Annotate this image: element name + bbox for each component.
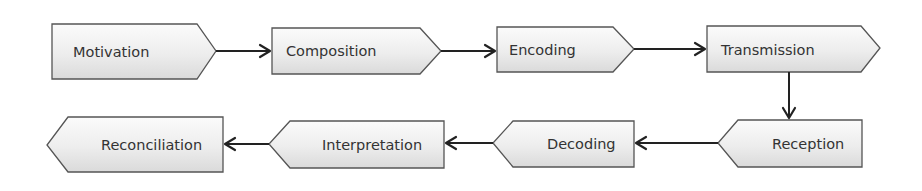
edge-motivation-composition xyxy=(216,45,270,57)
node-label: Reception xyxy=(772,136,844,152)
node-reception: Reception xyxy=(718,120,862,167)
edge-composition-encoding xyxy=(441,45,495,57)
node-motivation: Motivation xyxy=(52,24,216,79)
node-label: Reconciliation xyxy=(101,137,202,153)
node-label: Interpretation xyxy=(322,137,422,153)
node-label: Encoding xyxy=(509,42,576,58)
node-decoding: Decoding xyxy=(493,121,634,167)
node-encoding: Encoding xyxy=(497,27,634,72)
node-label: Composition xyxy=(286,43,377,59)
node-label: Transmission xyxy=(720,42,815,58)
edge-reception-decoding xyxy=(636,137,718,149)
node-composition: Composition xyxy=(272,28,441,74)
edge-transmission-reception xyxy=(783,72,795,118)
node-reconciliation: Reconciliation xyxy=(47,117,223,172)
communication-process-diagram: Motivation Composition Encoding Transmis… xyxy=(0,0,922,191)
edge-interpretation-reconciliation xyxy=(225,138,269,150)
edge-encoding-transmission xyxy=(634,43,705,55)
node-transmission: Transmission xyxy=(707,26,880,72)
node-label: Motivation xyxy=(73,44,149,60)
node-interpretation: Interpretation xyxy=(269,121,444,168)
node-label: Decoding xyxy=(547,136,616,152)
edge-decoding-interpretation xyxy=(446,137,493,149)
